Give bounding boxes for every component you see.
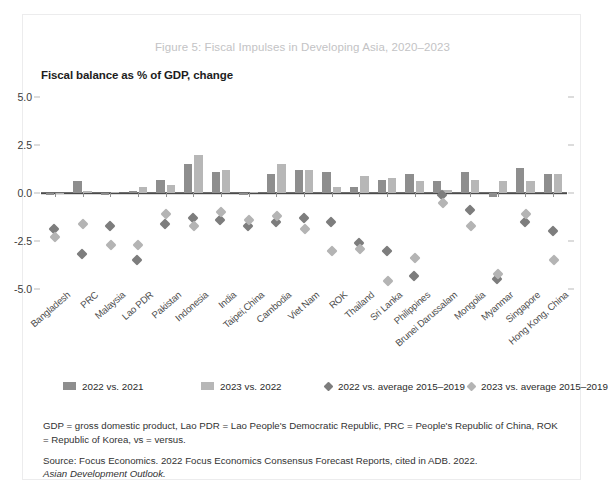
- x-axis-tick-mark: [332, 193, 333, 197]
- chart-bar: [461, 172, 469, 193]
- chart-bar: [222, 170, 230, 193]
- x-axis-tick-mark: [359, 193, 360, 197]
- y-axis-tick-mark: [34, 97, 40, 98]
- chart-diamond-marker: [464, 205, 475, 216]
- chart-diamond-marker: [77, 218, 88, 229]
- x-axis-tick-mark: [138, 193, 139, 197]
- chart-diamond-marker: [299, 224, 310, 235]
- chart-bar: [267, 174, 275, 193]
- chart-diamond-marker: [409, 270, 420, 281]
- x-axis-category-label: ROK: [326, 289, 348, 311]
- x-axis-tick-mark: [387, 193, 388, 197]
- chart-diamond-marker: [548, 255, 559, 266]
- chart-bar: [46, 193, 54, 195]
- chart-bar: [101, 193, 109, 195]
- y-axis-tick-label: 2.5: [17, 139, 32, 151]
- chart-bar: [73, 181, 81, 193]
- chart-bar: [360, 176, 368, 193]
- chart-bar: [194, 155, 202, 193]
- x-axis-tick-mark: [415, 193, 416, 197]
- chart-diamond-marker: [133, 239, 144, 250]
- legend-item: 2022 vs. average 2015–2019: [325, 381, 465, 392]
- figure-notes: GDP = gross domestic product, Lao PDR = …: [43, 419, 565, 481]
- chart-diamond-marker: [159, 218, 170, 229]
- chart-diamond-marker: [465, 220, 476, 231]
- chart-bar: [471, 180, 479, 193]
- x-axis-category-label: Bangladesh: [28, 289, 72, 329]
- chart-diamond-marker: [298, 212, 309, 223]
- chart-plot-area: 5.02.50.0-2.5-5.0: [41, 97, 567, 289]
- source-publication: Asian Development Outlook.: [43, 468, 166, 479]
- chart-bar: [489, 193, 497, 197]
- chart-diamond-marker: [410, 253, 421, 264]
- chart-diamond-marker: [188, 220, 199, 231]
- y-axis-tick-mark: [568, 97, 574, 98]
- legend-item: 2023 vs. average 2015–2019: [468, 381, 608, 392]
- source-line: Source: Focus Economics. 2022 Focus Econ…: [43, 455, 478, 466]
- chart-bar: [239, 193, 247, 195]
- y-axis-tick-mark: [34, 289, 40, 290]
- chart-bar: [526, 181, 534, 193]
- chart-subtitle: Fiscal balance as % of GDP, change: [41, 69, 233, 81]
- chart-bar: [305, 170, 313, 193]
- x-axis-tick-mark: [221, 193, 222, 197]
- chart-bar: [405, 174, 413, 193]
- legend-item-label: 2023 vs. average 2015–2019: [481, 381, 608, 392]
- x-axis-tick-mark: [110, 193, 111, 197]
- x-axis-labels: BangladeshPRCMalaysiaLao PDRPakistanIndo…: [41, 289, 567, 375]
- y-axis-tick-mark: [568, 145, 574, 146]
- chart-diamond-marker: [326, 216, 337, 227]
- chart-diamond-marker: [132, 255, 143, 266]
- chart-diamond-marker: [105, 239, 116, 250]
- legend-item-label: 2022 vs. average 2015–2019: [338, 381, 465, 392]
- x-axis-tick-mark: [249, 193, 250, 197]
- chart-diamond-marker: [327, 245, 338, 256]
- legend-item: 2022 vs. 2021: [63, 381, 144, 392]
- legend-item-label: 2022 vs. 2021: [82, 381, 144, 392]
- chart-bar: [499, 181, 507, 193]
- y-axis-tick-label: 5.0: [17, 91, 32, 103]
- chart-bar: [277, 164, 285, 193]
- chart-bar: [333, 187, 341, 193]
- abbreviations-note: GDP = gross domestic product, Lao PDR = …: [43, 419, 565, 447]
- chart-bar: [184, 164, 192, 193]
- source-note: Source: Focus Economics. 2022 Focus Econ…: [43, 454, 565, 482]
- chart-bar: [111, 192, 119, 193]
- chart-diamond-marker: [382, 276, 393, 287]
- x-axis-tick-mark: [276, 193, 277, 197]
- x-axis-tick-mark: [193, 193, 194, 197]
- chart-bar: [156, 180, 164, 193]
- chart-bar: [83, 191, 91, 193]
- y-axis-tick-mark: [34, 193, 40, 194]
- chart-diamond-marker: [50, 231, 61, 242]
- x-axis-category-label: India: [216, 289, 238, 310]
- chart-bar: [212, 172, 220, 193]
- y-axis-tick-mark: [34, 145, 40, 146]
- figure-title: Figure 5: Fiscal Impulses in Developing …: [23, 41, 582, 53]
- legend-bar-swatch-icon: [201, 382, 214, 390]
- x-axis-tick-mark: [304, 193, 305, 197]
- x-axis-tick-mark: [83, 193, 84, 197]
- chart-bar: [322, 172, 330, 193]
- x-axis-tick-mark: [553, 193, 554, 197]
- chart-diamond-marker: [76, 249, 87, 260]
- x-axis-tick-mark: [498, 193, 499, 197]
- y-axis-tick-label: -5.0: [14, 283, 32, 295]
- chart-diamond-marker: [547, 226, 558, 237]
- chart-diamond-marker: [381, 245, 392, 256]
- y-axis-tick-mark: [568, 241, 574, 242]
- y-axis-tick-label: 0.0: [17, 187, 32, 199]
- chart-bar: [544, 174, 552, 193]
- chart-bar: [129, 191, 137, 193]
- chart-bar: [516, 168, 524, 193]
- figure-card: Figure 5: Fiscal Impulses in Developing …: [22, 14, 581, 480]
- x-axis-category-label: PRC: [78, 289, 100, 310]
- chart-bar: [295, 170, 303, 193]
- legend-item: 2023 vs. 2022: [201, 381, 282, 392]
- chart-bar: [378, 180, 386, 193]
- chart-bar: [167, 185, 175, 193]
- legend-item-label: 2023 vs. 2022: [220, 381, 282, 392]
- x-axis-tick-mark: [525, 193, 526, 197]
- chart-bar: [388, 178, 396, 193]
- chart-diamond-marker: [160, 208, 171, 219]
